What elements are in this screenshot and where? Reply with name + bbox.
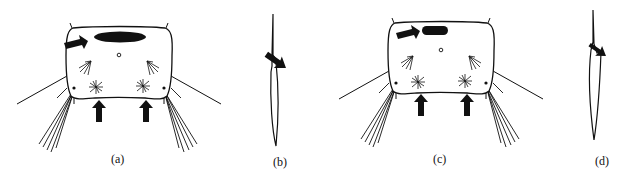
panel-a-drawing xyxy=(17,23,221,152)
figure: (a) (b) (c) (d) xyxy=(0,0,634,175)
panel-label-a: (a) xyxy=(111,152,124,167)
arrow-icon xyxy=(92,100,106,122)
arrow-icon xyxy=(460,94,474,116)
panel-label-d: (d) xyxy=(595,154,609,169)
dorsal-patch-a xyxy=(94,32,146,43)
panel-b-drawing xyxy=(262,14,290,146)
dorsal-patch-c xyxy=(422,26,448,35)
panel-label-c: (c) xyxy=(433,152,446,167)
panel-d-drawing xyxy=(586,10,609,140)
arrow-icon xyxy=(139,100,153,122)
panel-label-b: (b) xyxy=(273,155,287,170)
figure-drawings xyxy=(0,0,634,175)
panel-c-drawing xyxy=(339,18,543,147)
arrow-icon xyxy=(414,94,428,116)
